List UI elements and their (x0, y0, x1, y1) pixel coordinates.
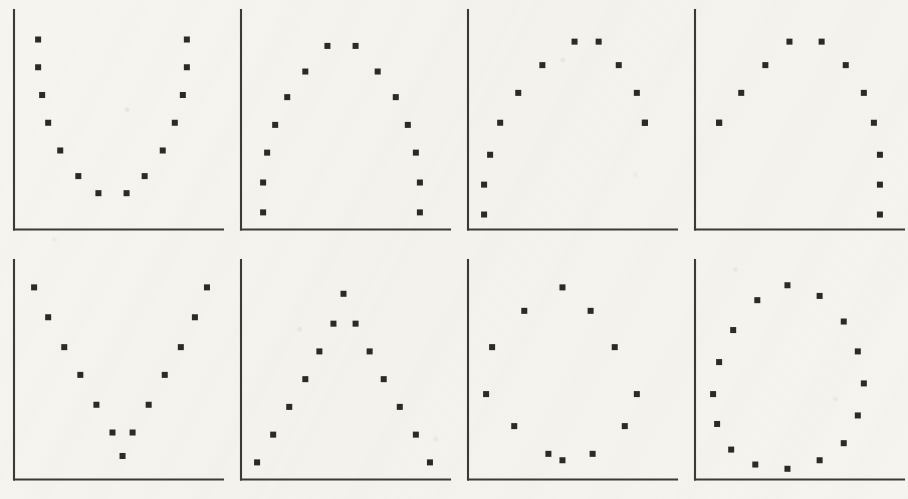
data-point-marker (381, 376, 387, 382)
data-point-marker (817, 292, 823, 298)
scatter-panel-6 (227, 250, 454, 499)
data-point-marker (841, 318, 847, 324)
scatter-panel-5 (0, 250, 227, 499)
data-point-marker (634, 90, 640, 96)
panel-6-plot (227, 250, 454, 499)
scatter-panel-7 (454, 250, 681, 499)
data-point-marker (45, 120, 51, 126)
data-point-marker (877, 152, 883, 158)
data-point-marker (417, 209, 423, 215)
data-point-marker (31, 284, 37, 290)
data-point-marker (521, 307, 527, 313)
data-point-marker (57, 147, 63, 153)
data-point-marker (204, 284, 210, 290)
data-point-marker (877, 182, 883, 188)
data-point-marker (483, 391, 489, 397)
data-point-marker (572, 39, 578, 45)
data-point-marker (160, 147, 166, 153)
data-point-marker (784, 282, 790, 288)
scatter-panel-3 (454, 0, 681, 250)
panel-3-plot (454, 0, 681, 250)
data-point-marker (405, 122, 411, 128)
data-point-marker (353, 320, 359, 326)
data-point-marker (861, 90, 867, 96)
data-point-marker (39, 92, 45, 98)
data-point-marker (817, 457, 823, 463)
data-point-marker (487, 152, 493, 158)
data-point-marker (590, 450, 596, 456)
data-point-marker (855, 412, 861, 418)
data-point-marker (192, 314, 198, 320)
data-point-marker (730, 327, 736, 333)
data-point-marker (184, 37, 190, 43)
panel-5-plot (0, 250, 227, 499)
data-point-marker (413, 431, 419, 437)
data-point-marker (316, 348, 322, 354)
data-point-marker (819, 39, 825, 45)
data-point-marker (260, 179, 266, 185)
data-point-marker (130, 429, 136, 435)
data-point-marker (146, 401, 152, 407)
data-point-marker (427, 459, 433, 465)
panel-2-plot (227, 0, 454, 250)
data-point-marker (861, 380, 867, 386)
data-point-marker (120, 452, 126, 458)
data-point-marker (841, 440, 847, 446)
data-point-marker (254, 459, 260, 465)
data-point-marker (481, 212, 487, 218)
data-point-marker (93, 401, 99, 407)
data-point-marker (375, 69, 381, 75)
data-point-marker (324, 43, 330, 49)
data-point-marker (75, 173, 81, 179)
data-point-marker (142, 173, 148, 179)
data-point-marker (871, 120, 877, 126)
data-point-marker (260, 209, 266, 215)
data-point-marker (559, 457, 565, 463)
data-point-marker (752, 461, 758, 467)
data-point-marker (124, 190, 130, 196)
data-point-marker (417, 179, 423, 185)
data-point-marker (596, 39, 602, 45)
panel-8-plot (681, 250, 908, 499)
data-point-marker (180, 92, 186, 98)
data-point-marker (367, 348, 373, 354)
scatter-panel-grid (0, 0, 908, 499)
data-point-marker (511, 423, 517, 429)
data-point-marker (786, 39, 792, 45)
data-point-marker (515, 90, 521, 96)
data-point-marker (162, 371, 168, 377)
panel-4-plot (681, 0, 908, 250)
scatter-panel-8 (681, 250, 908, 499)
data-point-marker (286, 403, 292, 409)
data-point-marker (710, 391, 716, 397)
data-point-marker (728, 446, 734, 452)
data-point-marker (95, 190, 101, 196)
data-point-marker (264, 150, 270, 156)
data-point-marker (843, 62, 849, 68)
data-point-marker (284, 94, 290, 100)
data-point-marker (302, 376, 308, 382)
scatter-panel-2 (227, 0, 454, 250)
data-point-marker (45, 314, 51, 320)
data-point-marker (877, 212, 883, 218)
data-point-marker (784, 465, 790, 471)
data-point-marker (545, 450, 551, 456)
data-point-marker (489, 344, 495, 350)
data-point-marker (714, 420, 720, 426)
data-point-marker (762, 62, 768, 68)
data-point-marker (716, 120, 722, 126)
data-point-marker (341, 290, 347, 296)
data-point-marker (754, 297, 760, 303)
data-point-marker (184, 64, 190, 70)
data-point-marker (716, 359, 722, 365)
scatter-panel-4 (681, 0, 908, 250)
data-point-marker (616, 62, 622, 68)
data-point-marker (497, 120, 503, 126)
data-point-marker (559, 284, 565, 290)
data-point-marker (539, 62, 545, 68)
data-point-marker (178, 344, 184, 350)
data-point-marker (588, 307, 594, 313)
data-point-marker (330, 320, 336, 326)
data-point-marker (612, 344, 618, 350)
panel-7-plot (454, 250, 681, 499)
